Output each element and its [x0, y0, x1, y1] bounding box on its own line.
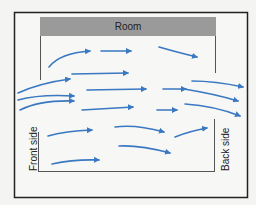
- outer-frame: [15, 13, 248, 198]
- airflow-diagram: Room Front side Back side: [0, 0, 256, 205]
- front-side-label: Front side: [28, 126, 39, 171]
- airflow-arrow: [87, 89, 146, 90]
- room-title: Room: [115, 21, 142, 32]
- airflow-arrow: [72, 73, 128, 74]
- back-side-label: Back side: [220, 127, 231, 171]
